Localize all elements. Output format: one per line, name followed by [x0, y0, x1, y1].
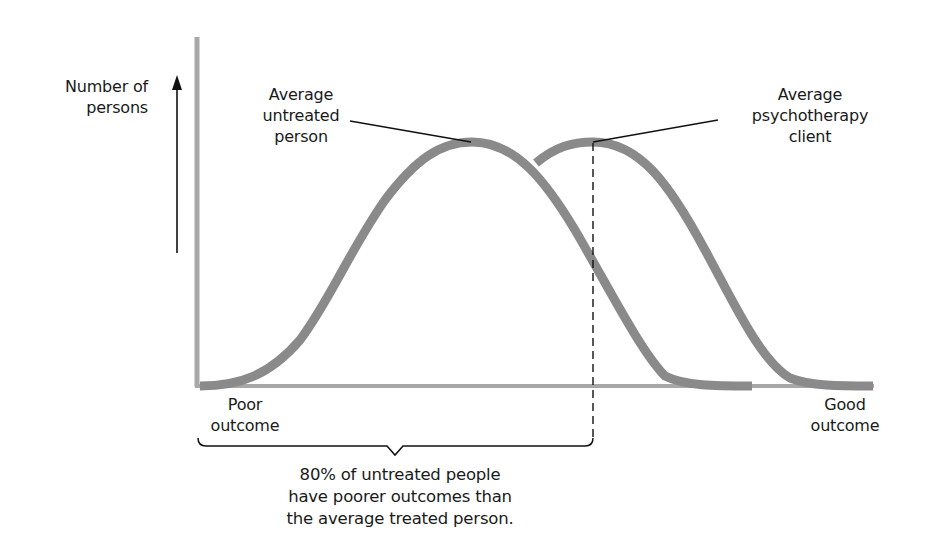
good-outcome-line-2: outcome [790, 415, 900, 436]
untreated-annotation: Average untreated person [236, 84, 366, 147]
up-arrow-icon [172, 75, 182, 253]
untreated-annotation-line-2: untreated [236, 105, 366, 126]
y-axis-label: Number of persons [20, 76, 148, 118]
y-axis-label-line-1: Number of [20, 76, 148, 97]
caption-line-2: have poorer outcomes than [255, 486, 545, 508]
treated-annotation-line-3: client [735, 126, 885, 147]
effect-size-figure: Number of persons Average untreated pers… [0, 0, 929, 553]
percentage-bracket [198, 438, 593, 455]
poor-outcome-label: Poor outcome [200, 394, 290, 436]
good-outcome-label: Good outcome [790, 394, 900, 436]
poor-outcome-line-2: outcome [200, 415, 290, 436]
treated-annotation-line-2: psychotherapy [735, 105, 885, 126]
caption-line-1: 80% of untreated people [255, 464, 545, 486]
untreated-distribution-curve [200, 142, 752, 386]
treated-annotation: Average psychotherapy client [735, 84, 885, 147]
bracket-caption: 80% of untreated people have poorer outc… [255, 464, 545, 530]
untreated-annotation-line-1: Average [236, 84, 366, 105]
treated-leader-line [593, 120, 718, 142]
good-outcome-line-1: Good [790, 394, 900, 415]
treated-annotation-line-1: Average [735, 84, 885, 105]
caption-line-3: the average treated person. [255, 508, 545, 530]
untreated-leader-line [350, 121, 471, 142]
untreated-annotation-line-3: person [236, 126, 366, 147]
y-axis-label-line-2: persons [20, 97, 148, 118]
poor-outcome-line-1: Poor [200, 394, 290, 415]
treated-distribution-curve [536, 142, 873, 386]
